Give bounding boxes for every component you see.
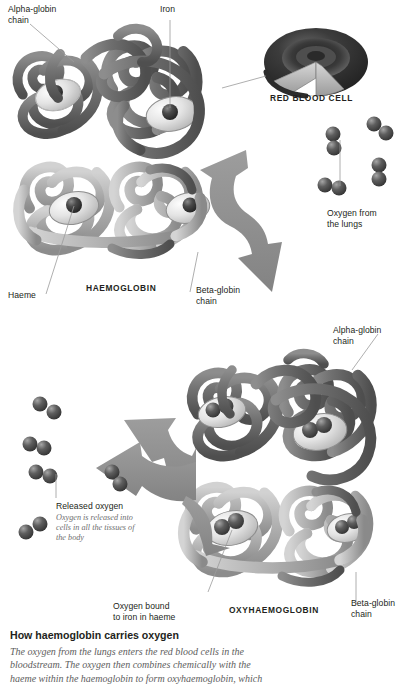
label-released-oxygen: Released oxygen bbox=[56, 501, 123, 512]
label-released-oxygen-detail: Oxygen is released into cells in all the… bbox=[56, 513, 134, 544]
label-beta-globin-chain-bottom: Beta-globin chain bbox=[351, 598, 395, 620]
oxygen-molecules-lungs bbox=[318, 117, 394, 196]
haemoglobin-molecule-top bbox=[18, 29, 213, 255]
label-oxygen-from-lungs: Oxygen from the lungs bbox=[327, 208, 377, 230]
figure-canvas: Alpha-globin chain Iron RED BLOOD CELL O… bbox=[0, 0, 402, 685]
figure-caption-title: How haemoglobin carries oxygen bbox=[10, 629, 179, 641]
red-blood-cell-illustration bbox=[264, 28, 368, 96]
label-oxygen-bound-to-iron: Oxygen bound to iron in haeme bbox=[113, 601, 175, 623]
label-beta-globin-chain-top: Beta-globin chain bbox=[196, 285, 240, 307]
label-iron: Iron bbox=[160, 4, 175, 15]
label-red-blood-cell: RED BLOOD CELL bbox=[270, 93, 353, 103]
label-haemoglobin: HAEMOGLOBIN bbox=[86, 283, 156, 293]
label-haeme: Haeme bbox=[8, 290, 36, 301]
label-alpha-globin-chain-top: Alpha-globin chain bbox=[8, 4, 56, 26]
label-alpha-globin-chain-bottom: Alpha-globin chain bbox=[333, 325, 381, 347]
figure-caption-body: The oxygen from the lungs enters the red… bbox=[10, 645, 310, 685]
label-oxyhaemoglobin: OXYHAEMOGLOBIN bbox=[229, 605, 319, 615]
arrow-oxygen-binding-down bbox=[200, 150, 282, 292]
